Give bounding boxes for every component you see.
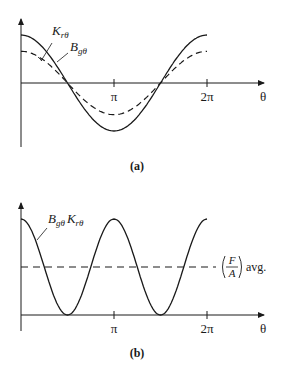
plot-b: BgθKrθ F A avg. π 2π θ (b) xyxy=(21,203,266,360)
plot-a: Krθ Bgθ π 2π θ (a) xyxy=(21,19,266,173)
tick-label-2pi-a: 2π xyxy=(200,89,214,104)
avg-label: F A avg. xyxy=(223,254,267,279)
label-k: Krθ xyxy=(51,23,69,40)
svg-text:A: A xyxy=(228,267,236,279)
tick-label-2pi-b: 2π xyxy=(200,321,214,336)
label-b: Bgθ xyxy=(70,39,87,56)
leader-b xyxy=(57,53,68,62)
caption-a: (a) xyxy=(130,159,144,173)
svg-text:avg.: avg. xyxy=(246,260,266,274)
leader-k xyxy=(41,43,52,61)
x-axis-label-a: θ xyxy=(260,89,266,104)
figure-canvas: Krθ Bgθ π 2π θ (a) BgθKrθ F A avg. π 2π … xyxy=(0,0,287,374)
tick-label-pi-a: π xyxy=(111,89,118,104)
tick-label-pi-b: π xyxy=(111,321,118,336)
leader-product xyxy=(37,228,47,240)
caption-b: (b) xyxy=(130,346,145,360)
label-product: BgθKrθ xyxy=(48,211,84,228)
svg-text:F: F xyxy=(228,254,236,266)
x-axis-label-b: θ xyxy=(260,321,266,336)
